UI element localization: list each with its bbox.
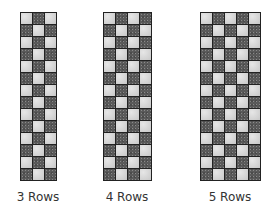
light-square [21,37,32,48]
dark-square [237,85,248,96]
dark-square [45,73,56,84]
dark-square [213,37,224,48]
light-square [237,121,248,132]
dark-square [116,109,127,120]
panel-label-5-rows: 5 Rows [195,190,265,204]
dark-square [140,109,151,120]
light-square [213,25,224,36]
light-square [225,13,236,24]
light-square [33,169,44,180]
dark-square [225,73,236,84]
dark-square [201,121,212,132]
light-square [104,109,115,120]
dark-square [21,145,32,156]
light-square [33,73,44,84]
light-square [128,133,139,144]
light-square [249,37,260,48]
light-square [201,109,212,120]
light-square [45,85,56,96]
dark-square [128,49,139,60]
light-square [45,109,56,120]
dark-square [128,145,139,156]
light-square [33,121,44,132]
dark-square [140,157,151,168]
light-square [21,61,32,72]
dark-square [140,133,151,144]
light-square [45,61,56,72]
light-square [104,13,115,24]
light-square [21,85,32,96]
dark-square [104,169,115,180]
light-square [45,157,56,168]
dark-square [21,169,32,180]
dark-square [140,13,151,24]
dark-square [201,49,212,60]
dark-square [213,109,224,120]
light-square [128,13,139,24]
light-square [21,13,32,24]
light-square [140,97,151,108]
light-square [140,145,151,156]
dark-square [128,97,139,108]
light-square [128,61,139,72]
light-square [213,169,224,180]
dark-square [140,61,151,72]
light-square [128,109,139,120]
light-square [237,25,248,36]
checkerboard-strip-5-rows [200,12,261,181]
light-square [225,37,236,48]
dark-square [33,61,44,72]
light-square [213,145,224,156]
dark-square [237,37,248,48]
light-square [104,37,115,48]
dark-square [249,121,260,132]
dark-square [104,25,115,36]
light-square [225,157,236,168]
dark-square [201,73,212,84]
light-square [45,133,56,144]
dark-square [45,121,56,132]
light-square [249,13,260,24]
dark-square [225,25,236,36]
dark-square [45,169,56,180]
light-square [140,169,151,180]
dark-square [116,157,127,168]
dark-square [225,145,236,156]
dark-square [33,13,44,24]
dark-square [104,145,115,156]
light-square [116,97,127,108]
light-square [128,157,139,168]
dark-square [104,121,115,132]
light-square [201,13,212,24]
dark-square [237,61,248,72]
light-square [237,97,248,108]
light-square [249,61,260,72]
dark-square [116,61,127,72]
dark-square [225,169,236,180]
dark-square [213,157,224,168]
dark-square [237,13,248,24]
light-square [21,109,32,120]
light-square [225,133,236,144]
light-square [116,25,127,36]
light-square [128,85,139,96]
light-square [201,85,212,96]
dark-square [21,121,32,132]
light-square [140,25,151,36]
light-square [237,49,248,60]
dark-square [249,73,260,84]
light-square [116,169,127,180]
dark-square [45,145,56,156]
dark-square [128,169,139,180]
dark-square [201,97,212,108]
light-square [33,145,44,156]
dark-square [33,133,44,144]
dark-square [201,145,212,156]
light-square [116,73,127,84]
dark-square [33,157,44,168]
dark-square [21,73,32,84]
light-square [45,13,56,24]
light-square [140,49,151,60]
light-square [249,85,260,96]
dark-square [249,169,260,180]
